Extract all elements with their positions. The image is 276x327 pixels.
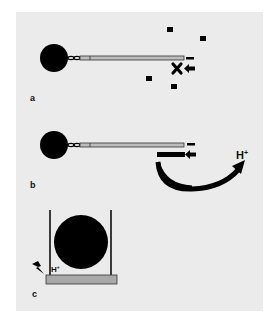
panel-label-b: b bbox=[30, 180, 36, 190]
lightning-icon bbox=[32, 261, 44, 274]
panel-label-a: a bbox=[30, 93, 36, 103]
panel-c: H+ c bbox=[32, 210, 117, 299]
linker-icon bbox=[68, 143, 80, 146]
proton-label: H+ bbox=[236, 149, 248, 161]
panel-b: H+ b bbox=[30, 131, 248, 190]
linker-icon bbox=[68, 56, 80, 59]
minus-sign-icon bbox=[187, 143, 195, 146]
proton-label: H+ bbox=[51, 264, 60, 274]
large-bead-icon bbox=[54, 215, 108, 269]
blocked-x-icon bbox=[173, 64, 181, 73]
minus-sign-icon bbox=[186, 57, 194, 60]
diagram-canvas: a H+ b H+ bbox=[0, 0, 276, 327]
bead-icon bbox=[40, 44, 68, 72]
panel-a: a bbox=[30, 27, 206, 103]
bound-bar-icon bbox=[157, 152, 185, 157]
curved-arrow-icon bbox=[158, 160, 245, 189]
base-plate-icon bbox=[46, 275, 117, 284]
rod-icon bbox=[80, 143, 184, 147]
left-arrow-icon bbox=[184, 64, 195, 73]
panel-label-c: c bbox=[32, 289, 37, 299]
bead-icon bbox=[40, 131, 68, 159]
left-arrow-icon bbox=[185, 150, 196, 159]
rod-icon bbox=[80, 56, 184, 60]
